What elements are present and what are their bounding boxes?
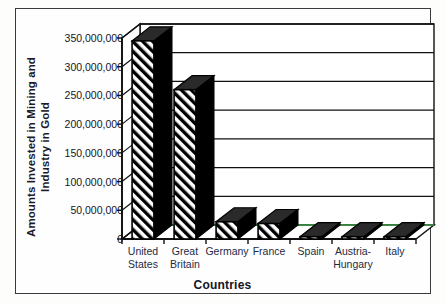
- x-axis-tick-label-line: Austria-: [335, 245, 371, 257]
- x-axis-title: Countries: [0, 278, 445, 292]
- bar-front-face: [342, 237, 364, 239]
- x-axis-tick-label: Italy: [367, 245, 423, 258]
- x-axis-tick-label-line: Spain: [298, 245, 325, 257]
- x-axis-tick-label-line: Great: [172, 245, 198, 257]
- bar-front-face: [174, 90, 196, 239]
- bar-front-face: [216, 222, 238, 239]
- bar-front-face: [384, 237, 406, 239]
- chart-figure: Amounts Invested in Mining and Industry …: [0, 0, 445, 304]
- bar-side-face: [196, 76, 214, 239]
- x-axis-tick-label-line: Britain: [170, 258, 200, 270]
- x-axis-tick-label-line: Hungary: [333, 258, 373, 270]
- x-axis-tick-label-line: France: [253, 245, 286, 257]
- x-axis-tick-label-line: United: [128, 245, 158, 257]
- bar-side-face: [154, 27, 172, 239]
- x-axis-tick-label-line: Italy: [385, 245, 404, 257]
- bar-front-face: [300, 237, 322, 239]
- x-axis-tick-label-line: States: [128, 258, 158, 270]
- x-axis-tick-labels: UnitedStatesGreatBritainGermanyFranceSpa…: [0, 245, 445, 277]
- bar-front-face: [258, 223, 280, 239]
- bar-front-face: [132, 41, 154, 239]
